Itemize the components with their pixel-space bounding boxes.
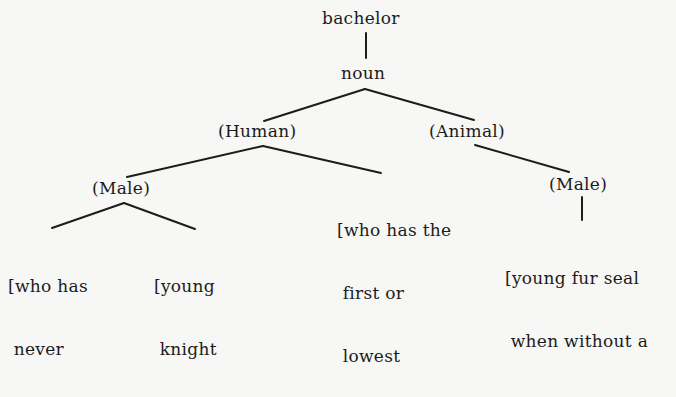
gloss-young-knight: [young knight serving under the standard… bbox=[154, 234, 273, 397]
gloss-line: lowest bbox=[337, 346, 451, 367]
node-bachelor: bachelor bbox=[322, 8, 400, 29]
edge-male-never-married bbox=[52, 203, 124, 228]
gloss-line: first or bbox=[337, 283, 451, 304]
node-human: (Human) bbox=[218, 121, 296, 142]
edge-human-degree bbox=[263, 146, 381, 173]
gloss-line: [young bbox=[154, 276, 273, 297]
node-noun: noun bbox=[341, 63, 385, 84]
gloss-line: never bbox=[8, 339, 92, 360]
gloss-line: [young fur seal bbox=[505, 268, 654, 289]
node-animal-male: (Male) bbox=[549, 174, 607, 195]
node-human-male: (Male) bbox=[92, 178, 150, 199]
gloss-line: [who has bbox=[8, 276, 92, 297]
node-animal: (Animal) bbox=[429, 121, 505, 142]
edge-human-male bbox=[127, 146, 263, 177]
gloss-never-married: [who has never married] bbox=[8, 234, 92, 397]
gloss-line: [who has the bbox=[337, 220, 451, 241]
gloss-degree: [who has the first or lowest academic de… bbox=[337, 178, 451, 397]
edge-noun-animal bbox=[365, 89, 474, 120]
gloss-line: knight bbox=[154, 339, 273, 360]
edge-noun-human bbox=[264, 89, 365, 121]
gloss-line: when without a bbox=[505, 331, 654, 352]
gloss-fur-seal: [young fur seal when without a mate duri… bbox=[505, 226, 654, 397]
edge-male-young-knight bbox=[124, 203, 195, 229]
edge-animal-male bbox=[475, 145, 569, 172]
